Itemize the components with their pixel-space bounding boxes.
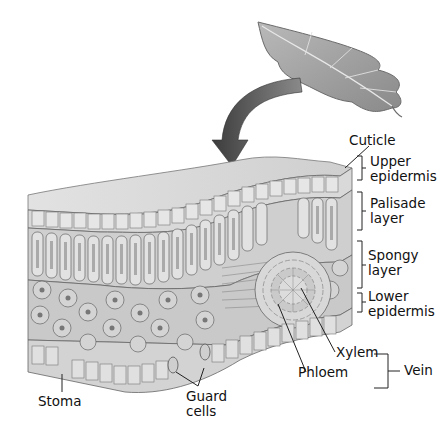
label-guard-cells-line1: Guard bbox=[186, 389, 227, 404]
label-upper-epidermis-line2: epidermis bbox=[370, 169, 437, 184]
label-upper-epidermis-line1: Upper bbox=[370, 154, 437, 169]
label-lower-epidermis: Lower epidermis bbox=[368, 289, 435, 319]
vein-bundle bbox=[255, 252, 331, 328]
label-upper-epidermis: Upper epidermis bbox=[370, 154, 437, 184]
label-guard-cells: Guard cells bbox=[186, 389, 227, 419]
label-cuticle: Cuticle bbox=[349, 133, 396, 148]
label-guard-cells-line2: cells bbox=[186, 404, 227, 419]
label-vein: Vein bbox=[404, 363, 433, 378]
label-spongy-layer: Spongy layer bbox=[368, 248, 419, 278]
label-palisade-layer-line2: layer bbox=[370, 211, 426, 226]
label-palisade-layer-line1: Palisade bbox=[370, 196, 426, 211]
label-spongy-layer-line2: layer bbox=[368, 263, 419, 278]
label-palisade-layer: Palisade layer bbox=[370, 196, 426, 226]
tissue-block bbox=[28, 157, 352, 393]
label-stoma: Stoma bbox=[38, 394, 82, 409]
zoom-arrow-icon bbox=[212, 78, 302, 166]
label-xylem: Xylem bbox=[336, 345, 378, 360]
label-lower-epidermis-line1: Lower bbox=[368, 289, 435, 304]
label-spongy-layer-line1: Spongy bbox=[368, 248, 419, 263]
label-phloem: Phloem bbox=[298, 365, 348, 380]
leaf-icon bbox=[258, 22, 402, 117]
label-lower-epidermis-line2: epidermis bbox=[368, 304, 435, 319]
